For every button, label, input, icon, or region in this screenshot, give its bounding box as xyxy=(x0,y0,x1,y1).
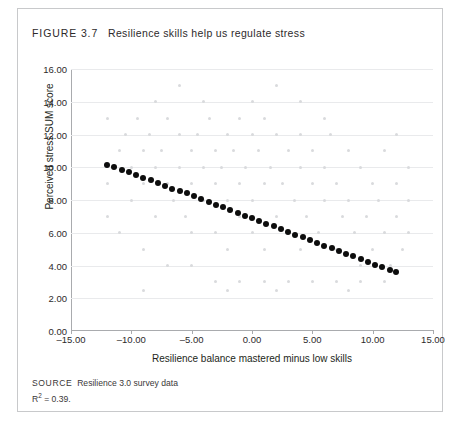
data-point xyxy=(407,199,410,202)
data-point xyxy=(377,199,380,202)
x-tick-mark xyxy=(433,330,434,334)
data-point xyxy=(287,149,290,152)
gridline xyxy=(71,298,433,299)
data-point xyxy=(407,231,410,234)
plot-area xyxy=(71,69,433,331)
gridline xyxy=(71,69,433,70)
x-tick-mark xyxy=(252,330,253,334)
data-point xyxy=(299,100,302,103)
data-point xyxy=(307,237,313,243)
r-squared-value: = 0.39. xyxy=(42,393,71,403)
data-point xyxy=(191,193,197,199)
data-point xyxy=(281,182,284,185)
data-point xyxy=(311,280,314,283)
data-point xyxy=(257,149,260,152)
data-point xyxy=(271,223,277,229)
y-tick-label: 12.00 xyxy=(43,129,67,140)
data-point xyxy=(190,231,193,234)
data-point xyxy=(336,248,342,254)
x-tick-label: 5.00 xyxy=(303,334,322,345)
data-point xyxy=(335,182,338,185)
data-point xyxy=(196,133,199,136)
data-point xyxy=(299,166,302,169)
data-point xyxy=(329,133,332,136)
data-point xyxy=(278,226,284,232)
data-point xyxy=(220,166,223,169)
data-point xyxy=(263,182,266,185)
data-point xyxy=(106,215,109,218)
x-tick-label: 15.00 xyxy=(421,334,445,345)
data-point xyxy=(226,248,229,251)
data-point xyxy=(190,149,193,152)
data-point xyxy=(393,269,399,275)
data-point xyxy=(172,199,175,202)
data-point xyxy=(335,280,338,283)
data-point xyxy=(314,240,320,246)
data-point xyxy=(213,202,219,208)
y-tick-label: 14.00 xyxy=(43,96,67,107)
data-point xyxy=(372,262,378,268)
data-point xyxy=(383,231,386,234)
x-tick-mark xyxy=(131,330,132,334)
data-point xyxy=(347,289,350,292)
data-point xyxy=(148,133,151,136)
data-point xyxy=(238,117,241,120)
x-tick-mark xyxy=(373,330,374,334)
x-tick-label: –5.00 xyxy=(180,334,204,345)
data-point xyxy=(136,117,139,120)
data-point xyxy=(350,253,356,259)
y-tick-label: 4.00 xyxy=(49,260,68,271)
data-point xyxy=(133,172,139,178)
data-point xyxy=(347,149,350,152)
x-axis-title: Resilience balance mastered minus low sk… xyxy=(71,353,433,364)
source-line: SOURCE Resilience 3.0 survey data xyxy=(32,377,178,390)
data-point xyxy=(235,210,241,216)
data-point xyxy=(305,215,308,218)
data-point xyxy=(317,231,320,234)
y-tick-label: 16.00 xyxy=(43,64,67,75)
data-point xyxy=(387,267,393,273)
data-point xyxy=(148,177,154,183)
data-point xyxy=(118,149,121,152)
source-keyword: SOURCE xyxy=(32,378,72,388)
data-point xyxy=(311,149,314,152)
data-point xyxy=(299,248,302,251)
data-point xyxy=(249,215,255,221)
data-point xyxy=(154,100,157,103)
data-point xyxy=(401,248,404,251)
data-point xyxy=(206,199,212,205)
data-point xyxy=(323,166,326,169)
data-point xyxy=(202,166,205,169)
data-point xyxy=(184,190,190,196)
data-point xyxy=(154,215,157,218)
r-squared-line: R2 = 0.39. xyxy=(32,390,178,405)
data-point xyxy=(379,264,385,270)
data-point xyxy=(220,204,226,210)
data-point xyxy=(285,229,291,235)
data-point xyxy=(106,117,109,120)
data-point xyxy=(395,182,398,185)
data-point xyxy=(140,175,146,181)
data-point xyxy=(238,280,241,283)
data-point xyxy=(226,133,229,136)
data-point xyxy=(227,207,233,213)
data-point xyxy=(287,280,290,283)
data-point xyxy=(169,186,175,192)
x-tick-mark xyxy=(71,330,72,334)
data-point xyxy=(358,256,364,262)
data-point xyxy=(119,167,125,173)
data-point xyxy=(111,164,117,170)
x-axis-tick-labels: –15.00–10.00–5.000.005.0010.0015.00 xyxy=(71,334,433,350)
data-point xyxy=(395,133,398,136)
data-point xyxy=(104,162,110,168)
data-point xyxy=(251,231,254,234)
data-point xyxy=(251,133,254,136)
plot-wrapper: Perceived stress SUM score 0.002.004.006… xyxy=(18,9,444,413)
source-note: SOURCE Resilience 3.0 survey data R2 = 0… xyxy=(32,377,178,405)
data-point xyxy=(177,188,183,194)
x-tick-label: 10.00 xyxy=(361,334,385,345)
figure-container: FIGURE 3.7 Resilience skills help us reg… xyxy=(17,8,443,412)
x-tick-label: –15.00 xyxy=(56,334,85,345)
y-tick-label: 6.00 xyxy=(49,227,68,238)
data-point xyxy=(242,213,248,219)
